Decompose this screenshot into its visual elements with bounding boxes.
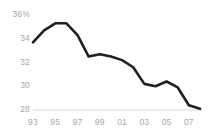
x-tick-label: 93 (22, 118, 44, 127)
x-tick-label: 01 (111, 118, 133, 127)
x-tick-label: 97 (67, 118, 89, 127)
x-tick-label: 95 (44, 118, 66, 127)
x-tick-label: 03 (133, 118, 155, 127)
x-tick-label: 99 (89, 118, 111, 127)
x-tick-label: 07 (178, 118, 200, 127)
line-chart: 36%34323028 9395979901030507 (0, 0, 215, 139)
x-axis: 9395979901030507 (0, 0, 215, 139)
x-tick-label: 05 (156, 118, 178, 127)
